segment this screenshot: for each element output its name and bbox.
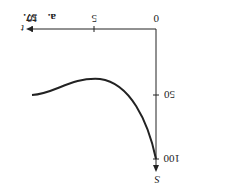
x-tick-0: 0 [154, 13, 160, 25]
chart: 57. a. t S 0 5 10 50 100 [0, 0, 240, 196]
x-tick-10: 10 [27, 13, 38, 25]
y-tick-100: 100 [164, 153, 181, 165]
x-tick-5: 5 [92, 13, 98, 25]
x-axis-label: t [21, 23, 24, 35]
y-axis-label: S [155, 174, 161, 186]
plot-area [0, 0, 240, 196]
y-tick-50: 50 [164, 89, 175, 101]
